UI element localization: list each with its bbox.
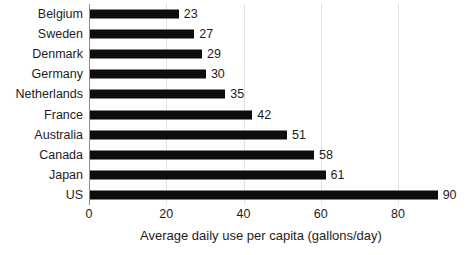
bar-value-label: 23 [184,8,198,21]
bar-value-label: 90 [443,189,457,202]
category-label: Australia [34,128,83,141]
x-tick-label: 80 [391,208,405,221]
bar-value-label: 30 [211,68,225,81]
bar [90,130,287,139]
bar [90,110,252,119]
bar-value-label: 29 [207,48,221,61]
bar-row: Australia51 [89,125,438,145]
category-label: Japan [49,169,83,182]
category-label: France [44,108,83,121]
bar [90,150,314,159]
bar [90,50,202,59]
bar [90,30,194,39]
category-label: US [66,189,83,202]
bar-value-label: 51 [292,128,306,141]
bar [90,190,438,199]
bar-row: Canada58 [89,145,438,165]
x-tick-label: 60 [314,208,328,221]
category-label: Canada [39,148,83,161]
plot-area: Belgium23Sweden27Denmark29Germany30Nethe… [89,4,438,205]
bar-value-label: 35 [230,88,244,101]
bar-row: France42 [89,105,438,125]
x-axis-title-text: Average daily use per capita (gallons/da… [140,228,382,243]
bar-row: Germany30 [89,64,438,84]
bar [90,70,206,79]
bar [90,90,225,99]
x-axis-title: Average daily use per capita (gallons/da… [0,228,472,243]
bar [90,170,326,179]
x-tick-label: 20 [159,208,173,221]
bar-value-label: 61 [331,169,345,182]
bar-row: US90 [89,185,438,205]
x-tick-label: 40 [237,208,251,221]
bar-row: Netherlands35 [89,84,438,104]
bar-value-label: 58 [319,148,333,161]
category-label: Netherlands [16,88,83,101]
bar-row: Japan61 [89,165,438,185]
bar-value-label: 42 [257,108,271,121]
category-label: Germany [32,68,83,81]
bar-row: Sweden27 [89,24,438,44]
category-label: Belgium [38,8,83,21]
bar-chart: Belgium23Sweden27Denmark29Germany30Nethe… [0,0,472,255]
bar [90,10,179,19]
x-tick-label: 0 [86,208,93,221]
category-label: Sweden [38,28,83,41]
category-label: Denmark [32,48,83,61]
bar-row: Belgium23 [89,4,438,24]
bar-rows: Belgium23Sweden27Denmark29Germany30Nethe… [89,4,438,205]
bar-value-label: 27 [199,28,213,41]
bar-row: Denmark29 [89,44,438,64]
